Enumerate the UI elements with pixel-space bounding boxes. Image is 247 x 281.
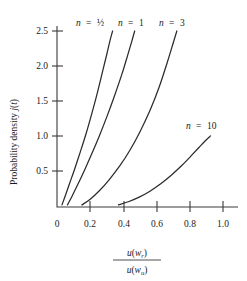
y-axis-title-text: Probability density bbox=[9, 111, 19, 185]
figure-container: Probability density j(t) 2.5 2.0 1.5 1.0… bbox=[0, 0, 247, 281]
y-tick-label-2.5: 2.5 bbox=[36, 26, 48, 36]
y-axis-tick-labels: 2.5 2.0 1.5 1.0 0.5 bbox=[36, 26, 48, 176]
y-axis-title-paren-close: ) bbox=[9, 99, 20, 102]
curve-label-n-1-n: n bbox=[118, 18, 123, 28]
x-axis-title-denominator: u(wu) bbox=[127, 265, 148, 276]
curve-n-half bbox=[62, 31, 113, 205]
y-axis-title: Probability density j(t) bbox=[9, 99, 20, 185]
curve-label-n-10-value: 10 bbox=[207, 121, 217, 131]
curve-label-n-1-eq: = bbox=[128, 18, 133, 28]
curve-n-3 bbox=[82, 31, 177, 205]
y-tick-label-1.0: 1.0 bbox=[36, 131, 48, 141]
curve-label-n-1-value: 1 bbox=[139, 18, 144, 28]
x-tick-label-0.6: 0.6 bbox=[151, 219, 163, 229]
x-axis-title: u(wr) u(wu) bbox=[113, 248, 161, 276]
curve-label-n-half-n: n bbox=[76, 18, 81, 28]
y-tick-label-0.5: 0.5 bbox=[36, 166, 48, 176]
curve-label-n-10-n: n bbox=[186, 121, 191, 131]
svg-text:Probability density j(t): Probability density j(t) bbox=[9, 99, 20, 185]
curve-label-n-10: n = 10 bbox=[186, 121, 217, 131]
x-title-num-close: ) bbox=[144, 248, 147, 259]
y-tick-label-2.0: 2.0 bbox=[36, 61, 48, 71]
curve-label-n-10-eq: = bbox=[196, 121, 201, 131]
curve-label-n-3-eq: = bbox=[169, 18, 174, 28]
x-axis-tick-labels: 0 0.2 0.4 0.6 0.8 1.0 bbox=[55, 219, 230, 229]
y-tick-label-1.5: 1.5 bbox=[36, 96, 48, 106]
curve-label-n-3-n: n bbox=[159, 18, 164, 28]
x-tick-label-0.8: 0.8 bbox=[184, 219, 196, 229]
data-curves bbox=[62, 31, 211, 205]
x-title-den-close: ) bbox=[144, 265, 147, 276]
curve-label-n-half-value: ½ bbox=[97, 18, 104, 28]
curve-label-n-3-value: 3 bbox=[180, 18, 185, 28]
x-axis-title-numerator: u(wr) bbox=[127, 248, 147, 259]
curve-label-n-1: n = 1 bbox=[118, 18, 144, 28]
probability-density-chart: Probability density j(t) 2.5 2.0 1.5 1.0… bbox=[0, 0, 247, 281]
curve-label-n-half-eq: = bbox=[86, 18, 91, 28]
x-tick-label-0.2: 0.2 bbox=[84, 219, 96, 229]
x-tick-label-0: 0 bbox=[55, 219, 60, 229]
x-tick-label-1.0: 1.0 bbox=[217, 219, 229, 229]
curve-label-n-3: n = 3 bbox=[159, 18, 185, 28]
curve-label-n-half: n = ½ bbox=[76, 18, 104, 28]
x-tick-label-0.4: 0.4 bbox=[118, 219, 130, 229]
curve-n-1 bbox=[67, 31, 134, 205]
